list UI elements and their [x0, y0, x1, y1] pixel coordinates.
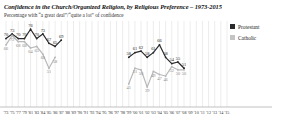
svg-text:50: 50: [176, 71, 181, 76]
svg-text:49: 49: [151, 73, 156, 78]
svg-text:'12: '12: [206, 110, 211, 115]
svg-text:'86: '86: [53, 110, 58, 115]
gridlines: [6, 21, 227, 107]
legend-label-catholic: Catholic: [238, 35, 256, 41]
svg-text:46: 46: [163, 77, 168, 82]
svg-text:61: 61: [151, 46, 155, 51]
svg-text:'97: '97: [114, 110, 119, 115]
svg-text:51: 51: [133, 69, 137, 74]
svg-text:'08: '08: [182, 110, 187, 115]
svg-text:'05: '05: [163, 110, 168, 115]
chart-figure: Confidence in the Church/Organized Relig…: [0, 0, 295, 132]
svg-text:58: 58: [163, 51, 168, 56]
svg-text:'91: '91: [83, 110, 88, 115]
svg-text:'90: '90: [77, 110, 82, 115]
legend-item-protestant: Protestant: [230, 22, 292, 31]
svg-text:'87: '87: [59, 110, 64, 115]
svg-text:'88: '88: [65, 110, 70, 115]
svg-text:'06: '06: [169, 110, 174, 115]
svg-text:'73: '73: [4, 110, 9, 115]
svg-text:'95: '95: [102, 110, 107, 115]
x-tick-labels: '73'75'77'79'81'83'84'85'86'87'88'89'90'…: [4, 110, 230, 115]
svg-text:55: 55: [176, 56, 181, 61]
svg-text:69: 69: [59, 34, 64, 39]
svg-text:'11: '11: [200, 110, 205, 115]
svg-text:'81: '81: [28, 110, 33, 115]
svg-text:52: 52: [170, 68, 174, 73]
svg-text:'01: '01: [139, 110, 144, 115]
svg-text:73: 73: [41, 28, 46, 33]
svg-text:70: 70: [16, 32, 21, 37]
legend-label-protestant: Protestant: [238, 24, 260, 30]
legend-swatch-protestant: [230, 24, 235, 29]
svg-text:67: 67: [47, 37, 52, 42]
svg-text:'96: '96: [108, 110, 113, 115]
legend-swatch-catholic: [230, 35, 235, 40]
svg-text:61: 61: [133, 46, 137, 51]
svg-text:64: 64: [28, 49, 33, 54]
svg-text:'15: '15: [225, 110, 230, 115]
svg-text:'99: '99: [126, 110, 131, 115]
chart-title: Confidence in the Church/Organized Relig…: [4, 3, 291, 11]
svg-text:62: 62: [139, 45, 143, 50]
svg-text:'02: '02: [145, 110, 150, 115]
svg-text:47: 47: [157, 76, 162, 81]
svg-text:'94: '94: [96, 110, 102, 115]
svg-text:'83: '83: [34, 110, 39, 115]
svg-text:'89: '89: [71, 110, 76, 115]
svg-text:68: 68: [16, 43, 21, 48]
svg-text:'00: '00: [132, 110, 137, 115]
svg-text:50: 50: [182, 71, 187, 76]
svg-text:'79: '79: [22, 110, 27, 115]
svg-text:58: 58: [53, 59, 58, 64]
svg-text:'77: '77: [16, 110, 21, 115]
svg-text:'93: '93: [89, 110, 94, 115]
legend-item-catholic: Catholic: [230, 33, 292, 42]
svg-text:'75: '75: [10, 110, 15, 115]
svg-text:39: 39: [145, 88, 150, 93]
svg-text:73: 73: [10, 28, 15, 33]
svg-text:'98: '98: [120, 110, 125, 115]
svg-text:'03: '03: [151, 110, 156, 115]
svg-text:54: 54: [170, 57, 175, 62]
svg-text:'14: '14: [218, 110, 224, 115]
svg-text:51: 51: [182, 62, 186, 67]
svg-text:'09: '09: [188, 110, 193, 115]
svg-text:'85: '85: [46, 110, 51, 115]
svg-text:76: 76: [28, 23, 33, 28]
svg-text:'13: '13: [212, 110, 217, 115]
svg-text:'10: '10: [194, 110, 199, 115]
svg-text:72: 72: [10, 37, 14, 42]
svg-text:66: 66: [4, 46, 9, 51]
svg-text:'84: '84: [40, 110, 46, 115]
svg-text:'04: '04: [157, 110, 163, 115]
chart-legend: Protestant Catholic: [230, 22, 292, 44]
chart-subtitle: Percentage with “a great deal”/“quite a …: [4, 12, 291, 19]
svg-text:66: 66: [157, 38, 162, 43]
svg-text:51: 51: [47, 69, 51, 74]
svg-text:41: 41: [127, 85, 131, 90]
svg-text:'07: '07: [175, 110, 180, 115]
